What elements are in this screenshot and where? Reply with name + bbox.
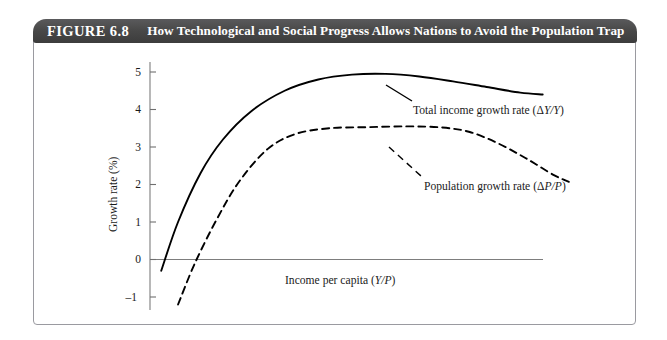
y-tick-label-neg1: –1: [117, 292, 137, 304]
x-axis-title-text: Income per capita (: [285, 274, 375, 287]
y-tick-label-1: 1: [121, 217, 141, 229]
annotation-pop-text: Population growth rate (Δ: [424, 180, 544, 193]
x-axis-title: Income per capita (Y/P): [285, 274, 395, 287]
y-tick-label-2: 2: [121, 179, 141, 191]
annotation-total-paren: ): [560, 104, 564, 117]
annotation-total-income-growth: Total income growth rate (ΔY/Y): [413, 104, 564, 117]
y-tick-label-4: 4: [121, 104, 141, 116]
x-axis-title-symbol: Y/P: [375, 274, 392, 287]
figure-number: FIGURE 6.8: [47, 23, 129, 40]
y-tick-label-0: 0: [121, 254, 141, 266]
figure-title-bar: FIGURE 6.8 How Technological and Social …: [33, 19, 637, 43]
annotation-total-symbol: Y/Y: [544, 104, 560, 117]
y-axis-title: Growth rate (%): [107, 157, 119, 232]
annotation-total-text: Total income growth rate (Δ: [413, 104, 544, 117]
y-tick-label-5: 5: [121, 67, 141, 79]
figure-title: How Technological and Social Progress Al…: [147, 23, 624, 39]
x-axis-title-paren: ): [392, 274, 396, 287]
annotation-pop-paren: ): [562, 180, 566, 193]
y-tick-label-3: 3: [121, 142, 141, 154]
annotation-pop-symbol: P/P: [544, 180, 561, 193]
annotation-population-growth: Population growth rate (ΔP/P): [424, 180, 566, 193]
